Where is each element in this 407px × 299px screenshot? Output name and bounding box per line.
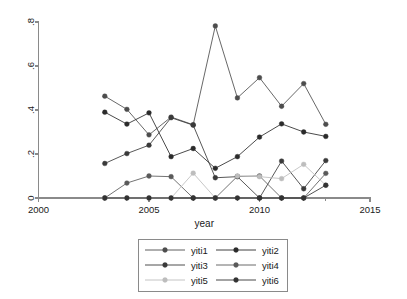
legend-label-yiti5: yiti5	[191, 275, 208, 286]
legend-label-yiti2: yiti2	[262, 245, 279, 256]
legend-marker-icon-yiti5	[163, 278, 168, 283]
data-point-yiti6-2005	[147, 196, 152, 201]
legend-marker-icon-yiti3	[163, 263, 168, 268]
series-yiti1	[102, 24, 328, 138]
x-axis-title-text: year	[195, 218, 215, 229]
legend-label-yiti1: yiti1	[191, 245, 208, 256]
data-point-yiti6-2010	[257, 196, 262, 201]
data-point-yiti5-2011	[279, 176, 284, 181]
series-line-yiti2	[105, 112, 326, 168]
data-point-yiti2-2009	[235, 154, 240, 159]
data-point-yiti3-2006	[169, 115, 174, 120]
data-point-yiti4-2013	[323, 171, 328, 176]
data-point-yiti6-2003	[102, 196, 107, 201]
data-point-yiti3-2003	[102, 161, 107, 166]
data-point-yiti3-2007	[191, 123, 196, 128]
data-point-yiti6-2012	[301, 196, 306, 201]
data-point-yiti6-2013	[323, 183, 328, 188]
line-chart: 0.2.4.6.82000200520102015 year yiti1yiti…	[0, 0, 407, 299]
data-point-yiti1-2008	[213, 24, 218, 29]
data-point-yiti1-2012	[301, 81, 306, 86]
x-axis-title: year	[195, 218, 215, 229]
data-point-yiti4-2005	[147, 174, 152, 179]
x-tick-label-2: 2010	[249, 204, 270, 215]
data-point-yiti5-2010	[257, 174, 262, 179]
x-tick-label-1: 2005	[138, 204, 159, 215]
data-point-yiti5-2007	[191, 171, 196, 176]
data-point-yiti3-2005	[147, 143, 152, 148]
legend-marker-icon-yiti1	[163, 248, 168, 253]
data-point-yiti2-2006	[169, 154, 174, 159]
data-point-yiti6-2008	[213, 196, 218, 201]
data-point-yiti3-2011	[279, 159, 284, 164]
data-point-yiti1-2005	[147, 132, 152, 137]
series-line-yiti3	[105, 118, 326, 198]
x-tick-label-0: 2000	[28, 204, 49, 215]
data-point-yiti5-2012	[301, 162, 306, 167]
chart-container: 0.2.4.6.82000200520102015 year yiti1yiti…	[0, 0, 407, 299]
data-point-yiti3-2013	[323, 158, 328, 163]
data-point-yiti6-2006	[169, 196, 174, 201]
data-point-yiti2-2003	[102, 110, 107, 115]
legend-label-yiti4: yiti4	[262, 260, 279, 271]
series-yiti2	[102, 110, 328, 171]
data-point-yiti2-2010	[257, 135, 262, 140]
data-point-yiti2-2005	[147, 110, 152, 115]
legend-marker-icon-yiti4	[234, 263, 239, 268]
y-tick-label-2: .4	[25, 106, 36, 114]
data-point-yiti1-2009	[235, 96, 240, 101]
y-tick-label-1: .2	[25, 150, 36, 158]
data-point-yiti5-2009	[235, 174, 240, 179]
data-point-yiti1-2010	[257, 75, 262, 80]
series-yiti6	[102, 183, 328, 201]
legend-marker-icon-yiti6	[234, 278, 239, 283]
chart-legend: yiti1yiti2yiti3yiti4yiti5yiti6	[138, 239, 287, 291]
data-point-yiti1-2013	[323, 122, 328, 127]
data-point-yiti1-2003	[102, 94, 107, 99]
data-point-yiti4-2004	[125, 181, 130, 186]
y-tick-label-4: .8	[25, 18, 36, 26]
legend-label-yiti3: yiti3	[191, 260, 208, 271]
data-point-yiti3-2004	[125, 151, 130, 156]
data-point-yiti4-2006	[169, 174, 174, 179]
legend-label-yiti6: yiti6	[262, 275, 279, 286]
data-point-yiti1-2004	[125, 107, 130, 112]
data-point-yiti6-2011	[279, 196, 284, 201]
data-point-yiti2-2008	[213, 166, 218, 171]
y-tick-label-0: 0	[25, 195, 36, 200]
legend-marker-icon-yiti2	[234, 248, 239, 253]
data-point-yiti3-2008	[213, 175, 218, 180]
series-yiti3	[102, 115, 328, 200]
data-point-yiti2-2004	[125, 122, 130, 127]
data-point-yiti6-2004	[125, 196, 130, 201]
data-point-yiti2-2011	[279, 121, 284, 126]
data-point-yiti6-2009	[235, 196, 240, 201]
y-tick-label-3: .6	[25, 62, 36, 70]
series-layer	[102, 24, 328, 201]
data-point-yiti6-2007	[191, 196, 196, 201]
data-point-yiti1-2011	[279, 104, 284, 109]
data-point-yiti2-2012	[301, 130, 306, 135]
data-point-yiti2-2013	[323, 134, 328, 139]
data-point-yiti2-2007	[191, 146, 196, 151]
data-point-yiti3-2012	[301, 186, 306, 191]
x-tick-label-3: 2015	[359, 204, 380, 215]
